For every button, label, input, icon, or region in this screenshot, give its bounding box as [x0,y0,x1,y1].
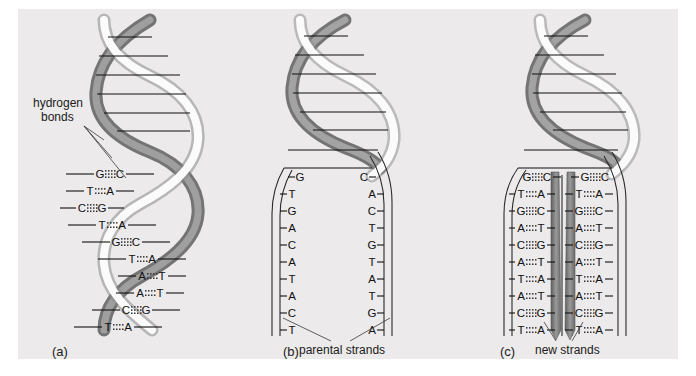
hydrogen-bond-dot [147,278,149,280]
base-letter-left: T [98,219,105,231]
hydrogen-bond-dot [529,244,531,246]
hydrogen-bond-dot [529,327,531,329]
hydrogen-bond-dot [153,273,155,275]
hydrogen-bond-dot [137,306,139,308]
hydrogen-bond-dot [532,196,534,198]
base-letter-left: A [138,270,146,282]
daughter-base-right-inner: A [575,222,583,234]
base-letter-right: T [158,270,165,282]
hydrogen-bond-dot [108,173,110,175]
hydrogen-bond-dot [526,264,528,266]
daughter-base-right-outer: G [595,239,604,251]
hydrogen-bond-dot [590,196,592,198]
hydrogen-bond-dot [98,193,100,195]
hydrogen-bond-dot [532,298,534,300]
base-letter-right: A [106,185,114,197]
hydrogen-bond-dot [584,207,586,209]
hydrogen-bond-dot [148,295,150,297]
hydrogen-bonds-label-line2: bonds [41,110,74,124]
hydrogen-bond-dot [127,241,129,243]
hydrogen-bond-dot [590,316,592,318]
hydrogen-bond-dot [593,259,595,261]
hydrogen-bond-dot [526,259,528,261]
daughter-base-left-outer: C [517,239,525,251]
parental-base-left: A [288,290,296,302]
hydrogen-bond-dot [526,281,528,283]
hydrogen-bond-dot [529,225,531,227]
hydrogen-bond-dot [110,227,112,229]
panel-a-label: (a) [52,344,68,359]
hydrogen-bond-dot [526,309,528,311]
hydrogen-bond-dot [98,188,100,190]
hydrogen-bond-dot [119,329,121,331]
hydrogen-bond-dot [590,298,592,300]
hydrogen-bond-dot [593,230,595,232]
hydrogen-bond-dot [590,264,592,266]
hydrogen-bond-dot [526,207,528,209]
hydrogen-bond-dot [584,316,586,318]
hydrogen-bond-dot [107,227,109,229]
parental-base-left: G [288,205,297,217]
hydrogen-bond-dot [529,332,531,334]
new-strands-label: new strands [535,343,600,357]
hydrogen-bond-dot [145,295,147,297]
hydrogen-bond-dot [532,312,534,314]
parental-base-left: G [296,171,305,183]
hydrogen-bond-dot [584,196,586,198]
hydrogen-bond-dot [590,259,592,261]
hydrogen-bond-dot [121,245,123,247]
daughter-base-left-inner: A [537,273,545,285]
hydrogen-bond-dot [584,241,586,243]
hydrogen-bond-dot [587,248,589,250]
daughter-base-right-outer: T [595,256,602,268]
daughter-base-right-inner: A [575,256,583,268]
hydrogen-bond-dot [590,244,592,246]
base-letter-right: A [148,253,156,265]
hydrogen-bond-dot [532,327,534,329]
hydrogen-bond-dot [156,278,158,280]
base-letter-right: A [118,219,126,231]
hydrogen-bond-dot [532,332,534,334]
hydrogen-bond-dot [116,329,118,331]
hydrogen-bond-dot [538,180,540,182]
base-letter-left: C [78,202,86,214]
hydrogen-bond-dot [150,273,152,275]
hydrogen-bond-dot [587,244,589,246]
hydrogen-bond-dot [590,276,592,278]
parental-base-left: T [288,188,295,200]
hydrogen-bond-dot [93,211,95,213]
daughter-base-left-inner: T [537,222,544,234]
hydrogen-bond-dot [529,214,531,216]
hydrogen-bond-dot [535,298,537,300]
hydrogen-bond-dot [108,177,110,179]
new-strand-left [551,172,561,340]
hydrogen-bond-dot [529,316,531,318]
hydrogen-bond-dot [143,261,145,263]
hydrogen-bond-dot [584,327,586,329]
hydrogen-bond-dot [590,248,592,250]
hydrogen-bond-dot [532,309,534,311]
hydrogen-bond-dot [134,309,136,311]
hydrogen-bond-dot [147,273,149,275]
hydrogen-bond-dot [111,173,113,175]
hydrogen-bond-dot [526,214,528,216]
daughter-base-right-outer: A [595,188,603,200]
hydrogen-bond-dot [590,312,592,314]
parental-base-right: C [368,205,376,217]
hydrogen-bond-dot [587,316,589,318]
hydrogen-bond-dot [535,225,537,227]
panel-a-helix [96,20,198,330]
daughter-base-left-inner: T [537,290,544,302]
parental-strands-label: parental strands [299,343,385,357]
figure-artwork: GCTACGTAGCTAATATCGTA hydrogen bonds (a) [0,0,696,376]
hydrogen-bond-dot [119,324,121,326]
parental-base-right: C [360,171,368,183]
hydrogen-bond-dot [587,241,589,243]
parental-base-right: G [368,239,377,251]
hydrogen-bond-dot [532,248,534,250]
hydrogen-bond-dot [587,276,589,278]
hydrogen-bond-dot [593,298,595,300]
base-letter-left: C [122,304,130,316]
hydrogen-bond-dot [590,191,592,193]
hydrogen-bond-dot [526,327,528,329]
